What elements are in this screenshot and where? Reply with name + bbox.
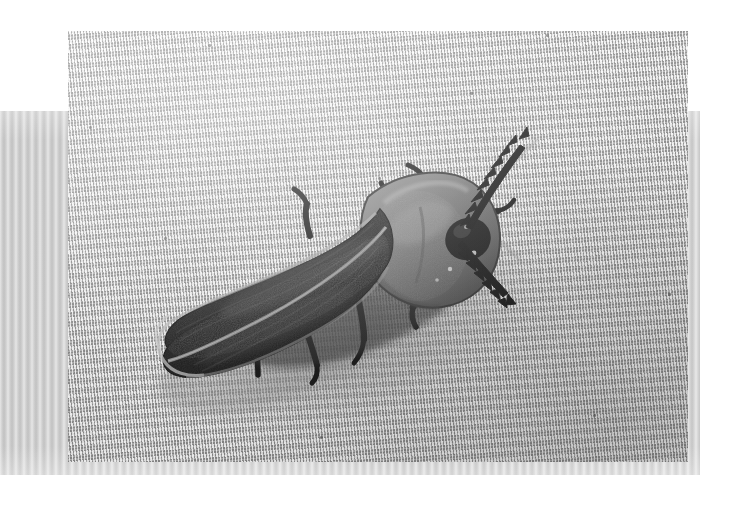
photograph [68, 31, 688, 462]
photo-caption: Black-and-white photograph of a beetle r… [0, 0, 1, 1]
beetle-subject [68, 31, 688, 462]
image-canvas: Black-and-white photograph of a beetle r… [0, 0, 736, 505]
